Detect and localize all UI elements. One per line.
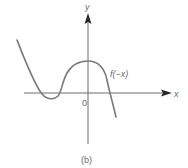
graph-figure: y x 0 f(−x) (b) [0,0,188,168]
function-label: f(−x) [110,69,128,79]
function-curve [17,40,116,117]
figure-caption: (b) [81,155,92,165]
y-axis-label: y [84,2,90,12]
x-axis-label: x [173,89,179,99]
origin-label: 0 [82,98,87,108]
